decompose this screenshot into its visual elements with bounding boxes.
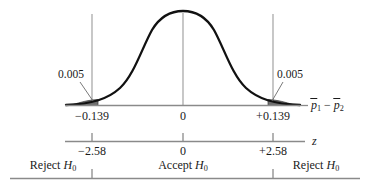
decision-label-accept-center: Accept H0 xyxy=(158,159,208,173)
decision-symbol-center: H xyxy=(195,158,204,172)
leader-line-right xyxy=(272,82,283,101)
axis-tick-label-z-right: +2.58 xyxy=(259,145,287,157)
tail-probability-right: 0.005 xyxy=(277,69,303,81)
tail-probability-left: 0.005 xyxy=(58,69,84,81)
decision-label-reject-right: Reject H0 xyxy=(293,159,339,173)
axis-label-p1: p xyxy=(311,98,317,112)
axis-label-sub2: 2 xyxy=(340,104,344,113)
decision-subscript-center: 0 xyxy=(204,164,208,173)
axis-label-primary: p1 − p2 xyxy=(311,99,344,113)
p-bar-overline-2 xyxy=(333,98,340,99)
axis-label-minus: − xyxy=(321,98,334,112)
axis-tick-label-z-left: −2.58 xyxy=(78,145,106,157)
decision-verb-left: Reject xyxy=(30,158,61,172)
decision-label-reject-left: Reject H0 xyxy=(30,159,76,173)
leader-line-left xyxy=(80,82,93,101)
axis-label-p2: p xyxy=(334,98,340,112)
hypothesis-test-figure: 0.005 0.005 −0.139 0 +0.139 p1 − p2 −2.5… xyxy=(0,0,369,187)
decision-subscript-left: 0 xyxy=(72,164,76,173)
axis-tick-label-primary-center: 0 xyxy=(180,110,186,122)
axis-tick-label-primary-right: +0.139 xyxy=(256,110,290,122)
axis-label-z: z xyxy=(312,135,317,147)
axis-tick-label-primary-left: −0.139 xyxy=(75,110,109,122)
axis-tick-label-z-center: 0 xyxy=(180,145,186,157)
decision-subscript-right: 0 xyxy=(335,164,339,173)
decision-verb-right: Reject xyxy=(293,158,324,172)
p-bar-overline-1 xyxy=(310,98,317,99)
decision-verb-center: Accept xyxy=(158,158,192,172)
